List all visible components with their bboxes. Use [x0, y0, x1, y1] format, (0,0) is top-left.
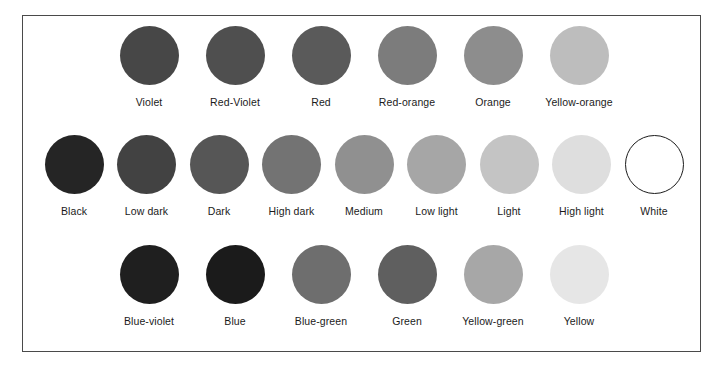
swatch-disc-icon — [206, 26, 265, 85]
swatch-label: Yellow-green — [462, 315, 524, 327]
swatch-label: Medium — [345, 205, 383, 217]
swatch-label: White — [640, 205, 667, 217]
swatch-violet: Violet — [106, 26, 192, 108]
warm-hues-row: VioletRed-VioletRedRed-orangeOrangeYello… — [0, 26, 728, 108]
swatch-yellow: Yellow — [536, 245, 622, 327]
swatch-disc-icon — [550, 26, 609, 85]
swatch-disc-icon — [120, 26, 179, 85]
swatch-label: High light — [559, 205, 604, 217]
swatch-high-light: High light — [545, 135, 618, 217]
swatch-light: Light — [473, 135, 546, 217]
swatch-label: Low light — [415, 205, 457, 217]
swatch-medium: Medium — [328, 135, 401, 217]
swatch-yellow-orange: Yellow-orange — [536, 26, 622, 108]
swatch-dark: Dark — [183, 135, 256, 217]
swatch-disc-icon — [378, 245, 437, 304]
swatch-label: Green — [392, 315, 422, 327]
swatch-label: Yellow — [564, 315, 595, 327]
swatch-white: White — [618, 135, 691, 217]
swatch-yellow-green: Yellow-green — [450, 245, 536, 327]
swatch-disc-icon — [335, 135, 394, 194]
swatch-disc-icon — [407, 135, 466, 194]
swatch-label: Red-Violet — [210, 96, 260, 108]
swatch-orange: Orange — [450, 26, 536, 108]
swatch-label: Blue-green — [295, 315, 347, 327]
cool-hues-row: Blue-violetBlueBlue-greenGreenYellow-gre… — [0, 245, 728, 327]
swatch-disc-icon — [206, 245, 265, 304]
swatch-low-dark: Low dark — [110, 135, 183, 217]
swatch-disc-icon — [117, 135, 176, 194]
swatch-label: Light — [497, 205, 520, 217]
swatch-label: Red-orange — [379, 96, 435, 108]
swatch-disc-icon — [625, 135, 684, 194]
swatch-disc-icon — [262, 135, 321, 194]
swatch-high-dark: High dark — [255, 135, 328, 217]
swatch-black: Black — [38, 135, 111, 217]
swatch-disc-icon — [292, 245, 351, 304]
swatch-label: Orange — [475, 96, 511, 108]
swatch-blue: Blue — [192, 245, 278, 327]
swatch-disc-icon — [190, 135, 249, 194]
swatch-label: Black — [61, 205, 87, 217]
swatch-disc-icon — [552, 135, 611, 194]
value-scale-figure: VioletRed-VioletRedRed-orangeOrangeYello… — [0, 0, 728, 369]
swatch-label: Violet — [136, 96, 163, 108]
swatch-blue-green: Blue-green — [278, 245, 364, 327]
swatch-disc-icon — [464, 245, 523, 304]
swatch-blue-violet: Blue-violet — [106, 245, 192, 327]
swatch-label: Dark — [208, 205, 231, 217]
swatch-low-light: Low light — [400, 135, 473, 217]
swatch-label: Blue-violet — [124, 315, 174, 327]
swatch-disc-icon — [378, 26, 437, 85]
swatch-disc-icon — [480, 135, 539, 194]
swatch-disc-icon — [550, 245, 609, 304]
swatch-label: Low dark — [125, 205, 168, 217]
swatch-label: Yellow-orange — [545, 96, 612, 108]
neutral-value-scale-row: BlackLow darkDarkHigh darkMediumLow ligh… — [0, 135, 728, 217]
swatch-red: Red — [278, 26, 364, 108]
swatch-green: Green — [364, 245, 450, 327]
swatch-red-violet: Red-Violet — [192, 26, 278, 108]
swatch-red-orange: Red-orange — [364, 26, 450, 108]
swatch-label: Blue — [224, 315, 245, 327]
swatch-disc-icon — [45, 135, 104, 194]
swatch-label: High dark — [269, 205, 315, 217]
swatch-disc-icon — [120, 245, 179, 304]
swatch-disc-icon — [464, 26, 523, 85]
swatch-disc-icon — [292, 26, 351, 85]
swatch-label: Red — [311, 96, 331, 108]
